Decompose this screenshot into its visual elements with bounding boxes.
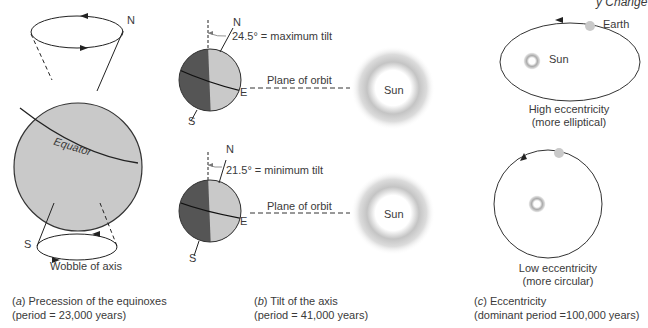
orbit-circle — [494, 150, 602, 258]
plane-of-orbit-label: Plane of orbit — [267, 200, 332, 213]
north-label: N — [127, 14, 135, 27]
plane-of-orbit-label: Plane of orbit — [267, 74, 332, 87]
running-header: y Change — [596, 0, 647, 9]
sun-dot — [523, 52, 541, 70]
arrow-icon — [80, 13, 88, 19]
low-eccentricity-desc: Low eccentricity (more circular) — [506, 262, 610, 288]
south-label: S — [24, 238, 31, 251]
earth-globe — [14, 103, 142, 231]
sun-label: Sun — [549, 53, 569, 66]
caption-b-letter: b — [258, 295, 264, 307]
sun-dot — [528, 195, 546, 213]
more-elliptical-label: (more elliptical) — [532, 116, 607, 128]
caption-a-period: (period = 23,000 years) — [12, 309, 126, 321]
max-tilt-label: 24.5° = maximum tilt — [232, 30, 332, 43]
east-label: E — [240, 215, 247, 228]
orbit-ellipse — [500, 23, 640, 101]
high-eccentricity-label: High eccentricity — [529, 103, 610, 115]
arrow-icon — [80, 45, 88, 51]
precession-figure — [14, 13, 142, 263]
caption-a: (a) Precession of the equinoxes (period … — [12, 294, 167, 322]
north-label: N — [233, 16, 241, 29]
caption-c-period: (dominant period =100,000 years) — [474, 309, 639, 321]
caption-b-period: (period = 41,000 years) — [254, 309, 368, 321]
arrow-icon — [555, 17, 563, 23]
south-label: S — [189, 252, 196, 265]
high-eccentricity-desc: High eccentricity (more elliptical) — [517, 103, 621, 129]
caption-a-title: Precession of the equinoxes — [29, 295, 167, 307]
sun-label: Sun — [384, 208, 404, 221]
eccentricity-low — [494, 148, 602, 258]
sun-label: Sun — [384, 84, 404, 97]
east-label: E — [240, 86, 247, 99]
caption-c: (c) Eccentricity (dominant period =100,0… — [474, 294, 639, 322]
caption-c-title: Eccentricity — [490, 295, 546, 307]
caption-b: (b) Tilt of the axis (period = 41,000 ye… — [254, 294, 368, 322]
min-tilt-label: 21.5° = minimum tilt — [226, 164, 323, 177]
earth-dot — [585, 21, 595, 31]
earth-dot — [554, 148, 564, 158]
more-circular-label: (more circular) — [523, 275, 594, 287]
caption-b-title: Tilt of the axis — [270, 295, 337, 307]
wobble-label: Wobble of axis — [50, 260, 122, 273]
north-label: N — [226, 143, 234, 156]
low-eccentricity-label: Low eccentricity — [519, 262, 597, 274]
arrow-icon — [92, 231, 100, 237]
south-label: S — [188, 115, 195, 128]
caption-a-letter: a — [16, 295, 22, 307]
caption-c-letter: c — [478, 295, 484, 307]
earth-label: Earth — [603, 18, 629, 31]
